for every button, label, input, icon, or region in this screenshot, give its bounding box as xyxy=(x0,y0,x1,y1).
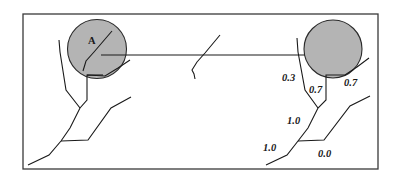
initial-state: A xyxy=(28,20,131,166)
point-label-a: A xyxy=(88,35,96,46)
weight-label-0-7-left: 0.7 xyxy=(309,84,323,95)
left-branch-3 xyxy=(61,97,131,141)
middle-curve xyxy=(192,35,220,79)
weight-label-1-0-lower: 1.0 xyxy=(263,142,277,153)
diagram-canvas: A 0.3 0.7 0.7 1.0 1.0 0.0 xyxy=(0,0,394,174)
right-branch-3 xyxy=(298,96,370,141)
left-branch-2 xyxy=(28,60,130,165)
final-state: 0.3 0.7 0.7 1.0 1.0 0.0 xyxy=(263,20,370,165)
weight-label-1-0-upper: 1.0 xyxy=(287,115,301,126)
weight-label-0-3: 0.3 xyxy=(282,72,295,83)
weight-label-0-7-right: 0.7 xyxy=(344,77,358,88)
weight-label-0-0: 0.0 xyxy=(318,148,332,159)
